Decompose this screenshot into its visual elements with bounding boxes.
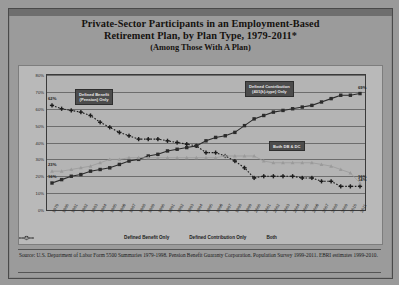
data-label-start: 62% [48, 96, 56, 101]
annotation-both: Both DB & DC [269, 141, 305, 151]
source-text: Source: U.S. Department of Labor Form 55… [19, 252, 381, 259]
y-axis-tick-label: 10% [36, 191, 44, 196]
legend-item[interactable]: Both [266, 235, 276, 240]
data-label-start: 23% [48, 162, 56, 167]
y-axis-tick-label: 40% [36, 140, 44, 145]
legend-item[interactable]: Defined Contribution Only [189, 235, 246, 240]
annotation-defined-benefit: Defined Benefit(Pension) Only [75, 89, 113, 105]
data-label-end: 16% [358, 174, 366, 179]
legend-label: Defined Contribution Only [189, 235, 246, 240]
legend-label: Both [266, 235, 276, 240]
y-axis-tick-label: 70% [36, 89, 44, 94]
poster-frame: Private-Sector Participants in an Employ… [8, 8, 393, 279]
annotation-defined-contribution: Defined Contribution(401(k)-type) Only [245, 81, 294, 97]
legend-label: Defined Benefit Only [124, 235, 169, 240]
title-line-3: (Among Those With A Plan) [9, 42, 392, 53]
series-square [50, 92, 361, 185]
chart-panel: 0%10%20%30%40%50%60%70%80% Defined Benef… [18, 65, 383, 245]
y-axis-tick-label: 30% [36, 157, 44, 162]
legend-swatch-triangle [19, 235, 34, 241]
y-axis-tick-label: 80% [36, 73, 44, 78]
series-plus [50, 103, 362, 188]
y-axis-tick-label: 50% [36, 123, 44, 128]
y-axis-tick-label: 0% [38, 208, 44, 213]
data-label-end: 69% [358, 84, 366, 89]
y-axis-tick-label: 60% [36, 106, 44, 111]
series-triangle [50, 154, 362, 185]
top-accent-bar [9, 9, 392, 16]
chart-title: Private-Sector Participants in an Employ… [9, 18, 392, 53]
data-label-start: 16% [48, 174, 56, 179]
bottom-rule [18, 272, 381, 273]
chart-legend: Defined Benefit OnlyDefined Contribution… [19, 235, 382, 240]
legend-item[interactable]: Defined Benefit Only [124, 235, 169, 240]
y-axis-tick-label: 20% [36, 174, 44, 179]
plot-area: 0%10%20%30%40%50%60%70%80% Defined Benef… [46, 74, 366, 211]
title-line-2: Retirement Plan, by Plan Type, 1979-2011… [9, 30, 392, 42]
source-note: Source: U.S. Department of Labor Form 55… [18, 249, 381, 272]
title-line-1: Private-Sector Participants in an Employ… [9, 18, 392, 30]
